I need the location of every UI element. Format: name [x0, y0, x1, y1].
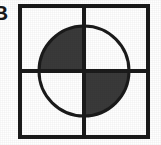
- panel-label: B: [0, 1, 11, 25]
- quadrant-circle-diagram: [18, 4, 150, 139]
- figure-panel: B: [0, 0, 161, 145]
